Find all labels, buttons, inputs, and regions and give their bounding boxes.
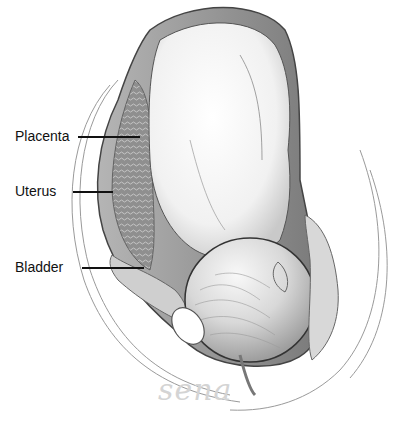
label-uterus: Uterus: [15, 183, 56, 199]
leader-line-placenta: [78, 136, 140, 138]
fetus-body: [149, 23, 290, 259]
artist-signature: sena: [158, 372, 232, 407]
rectum: [305, 215, 338, 360]
leader-line-bladder: [82, 267, 144, 269]
leader-line-uterus: [73, 191, 113, 193]
fetus-head: [185, 238, 315, 362]
label-placenta: Placenta: [15, 128, 69, 144]
fetus-illustration: [0, 0, 405, 422]
label-bladder: Bladder: [15, 259, 63, 275]
